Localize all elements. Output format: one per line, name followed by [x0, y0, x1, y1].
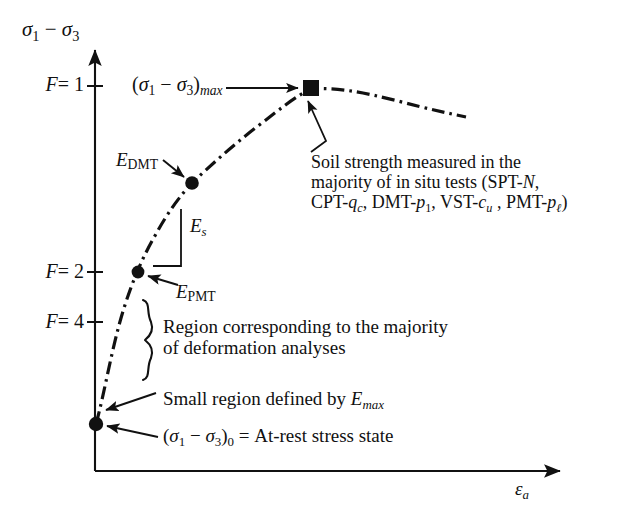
y-axis-sigma1: σ — [22, 17, 32, 41]
tick-f2-symbol: F — [46, 260, 58, 282]
e-pmt-label: EPMT — [176, 281, 216, 304]
tick-label-f2: F= 2 — [22, 260, 84, 282]
soil-strength-line3: CPT-qc, DMT-p1, VST-cu , PMT-pℓ) — [311, 192, 567, 216]
e-max-base: E — [351, 388, 363, 409]
e-max-sub: max — [362, 397, 384, 412]
l3-dmt: , DMT- — [363, 192, 416, 212]
sigma-max-dash: − — [155, 73, 176, 95]
tick-label-f4: F= 4 — [22, 310, 84, 332]
l3-qc-base: q — [348, 192, 357, 212]
sigma-max-open: ( — [132, 73, 139, 95]
soil-strength-line2-a: majority of in situ tests (SPT- — [311, 172, 523, 192]
small-region-text: Small region defined by — [163, 388, 351, 409]
x-axis-epsilon: ε — [515, 478, 523, 499]
arrow-to-edmt-point — [163, 160, 184, 177]
tick-f1-symbol: F — [46, 73, 58, 95]
stress-strain-curve-group — [96, 89, 466, 424]
l3-vst: , VST- — [431, 192, 478, 212]
soil-strength-line2: majority of in situ tests (SPT-N, — [311, 172, 567, 192]
sigma-max-sub: max — [200, 83, 223, 98]
sigma-max-s1: σ — [139, 73, 149, 95]
e-dmt-sub: DMT — [128, 157, 158, 172]
l3-cpt: CPT- — [311, 192, 348, 212]
soil-strength-spt-n: N — [523, 172, 535, 192]
l3-close: ) — [561, 192, 567, 212]
at-rest-s3: σ — [205, 425, 214, 446]
e-s-sub: s — [202, 224, 207, 239]
at-rest-annotation: (σ1 − σ3)0 = At-rest stress state — [163, 425, 394, 450]
arrow-to-peak-from-caption — [308, 101, 326, 152]
at-rest-s1: σ — [169, 425, 178, 446]
y-axis-sigma3-sub: 3 — [72, 28, 79, 44]
tick-f4-symbol: F — [46, 310, 58, 332]
tick-label-f1: F= 1 — [22, 73, 84, 95]
arrow-to-small-region — [106, 393, 156, 410]
es-modulus-step — [153, 209, 181, 266]
stress-strain-curve — [96, 89, 466, 424]
annotation-arrows — [106, 88, 326, 437]
arrow-to-at-rest-point — [107, 426, 158, 437]
y-axis-minus: − — [40, 17, 62, 41]
l3-p1-base: p — [416, 192, 425, 212]
stress-strain-figure: σ1 − σ3 εa F= 1 F= 2 F= 4 (σ1 − σ3)max E… — [0, 0, 640, 529]
e-pmt-base: E — [176, 281, 188, 302]
e-s-label: Es — [190, 215, 207, 240]
diagram-canvas — [0, 0, 640, 529]
at-rest-dash: − — [185, 425, 205, 446]
deformation-region-brace — [143, 300, 152, 380]
sigma-max-s3: σ — [177, 73, 187, 95]
tick-f4-value: = 4 — [58, 310, 84, 332]
soil-strength-annotation: Soil strength measured in the majority o… — [311, 152, 567, 216]
at-rest-equals: = At-rest stress state — [234, 425, 394, 446]
y-axis-label: σ1 − σ3 — [22, 18, 79, 44]
e-dmt-point-marker — [185, 176, 199, 190]
x-axis-epsilon-sub: a — [523, 487, 529, 502]
soil-strength-line2-c: , — [535, 172, 540, 192]
e-pmt-sub: PMT — [188, 289, 216, 304]
deformation-region-annotation: Region corresponding to the majority of … — [163, 316, 448, 359]
tick-f2-value: = 2 — [58, 260, 84, 282]
y-axis-sigma1-sub: 1 — [32, 28, 39, 44]
y-axis-sigma3: σ — [62, 17, 72, 41]
at-rest-point-marker — [89, 417, 103, 431]
peak-strength-point-marker — [303, 80, 319, 96]
e-s-base: E — [190, 215, 202, 236]
e-dmt-label: EDMT — [116, 149, 158, 172]
l3-pl-base: p — [547, 192, 556, 212]
curve-markers — [89, 80, 319, 431]
x-axis-label: εa — [515, 478, 529, 503]
arrow-to-epmt-point — [148, 276, 178, 285]
region-line2: of deformation analyses — [163, 337, 448, 358]
region-line1: Region corresponding to the majority — [163, 316, 448, 337]
e-pmt-point-marker — [132, 266, 145, 279]
peak-strength-label: (σ1 − σ3)max — [132, 73, 223, 99]
sigma-max-close: ) — [193, 73, 200, 95]
small-region-annotation: Small region defined by Emax — [163, 388, 384, 413]
l3-pmt: , PMT- — [492, 192, 547, 212]
soil-strength-line1: Soil strength measured in the — [311, 152, 567, 172]
tick-f1-value: = 1 — [58, 73, 84, 95]
e-dmt-base: E — [116, 149, 128, 170]
